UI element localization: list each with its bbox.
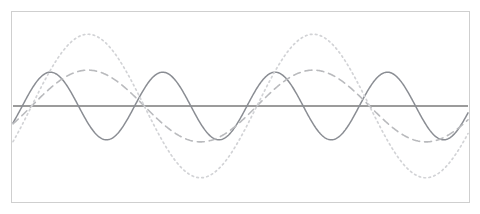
wave-plot-svg [0, 0, 480, 214]
figure-canvas [0, 0, 480, 214]
